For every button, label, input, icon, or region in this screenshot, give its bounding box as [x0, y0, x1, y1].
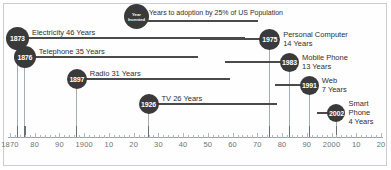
axis-tick-major: [35, 133, 36, 138]
axis-tick-minor: [371, 135, 372, 138]
axis-tick-minor: [173, 135, 174, 138]
axis-tick-major: [332, 133, 333, 138]
axis-ticks: [0, 130, 391, 138]
event-year-circle: 1876: [14, 46, 36, 68]
axis-tick-major: [134, 133, 135, 138]
axis-tick-major: [183, 133, 184, 138]
event-label-line2: Phone: [348, 108, 373, 117]
axis-tick-minor: [144, 135, 145, 138]
axis-tick-minor: [188, 135, 189, 138]
event-label-line1: Mobile Phone: [302, 53, 348, 62]
axis-tick-minor: [119, 135, 120, 138]
axis-tick-minor: [149, 135, 150, 138]
axis-tick-label: 60: [228, 140, 237, 149]
axis-tick-minor: [336, 135, 337, 138]
axis-tick-minor: [366, 135, 367, 138]
axis-tick-minor: [213, 135, 214, 138]
axis-tick-minor: [124, 135, 125, 138]
event-label: TV 26 Years: [162, 94, 203, 103]
legend-adoption-label: Years to adoption by 25% of US Populatio…: [149, 9, 283, 16]
axis-tick-minor: [317, 135, 318, 138]
axis-tick-minor: [351, 135, 352, 138]
axis-tick-minor: [55, 135, 56, 138]
event-label-line1: Web: [322, 76, 337, 85]
axis-tick-minor: [277, 135, 278, 138]
axis-tick-minor: [153, 135, 154, 138]
axis-tick-label: 10: [352, 140, 361, 149]
axis-tick-minor: [163, 135, 164, 138]
event-label: Telephone 35 Years: [39, 47, 105, 56]
axis-tick-major: [307, 133, 308, 138]
event-label-line1: Personal Computer: [283, 30, 348, 39]
axis-tick-minor: [361, 135, 362, 138]
axis-tick-major: [233, 133, 234, 138]
axis-tick-label: 40: [179, 140, 188, 149]
axis-tick-minor: [15, 135, 16, 138]
event-drop-line: [24, 57, 25, 137]
axis-tick-minor: [228, 135, 229, 138]
event-label-line2: 13 Years: [302, 62, 348, 71]
event-year-circle: 1991: [300, 76, 319, 95]
axis-tick-major: [10, 133, 11, 138]
axis-tick-major: [84, 133, 85, 138]
axis-tick-minor: [99, 135, 100, 138]
axis-tick-minor: [64, 135, 65, 138]
axis-tick-minor: [218, 135, 219, 138]
event-year-circle: 1975: [259, 29, 280, 50]
axis-tick-major: [282, 133, 283, 138]
event-label: Mobile Phone13 Years: [302, 53, 348, 71]
axis-tick-minor: [193, 135, 194, 138]
axis-tick-minor: [168, 135, 169, 138]
axis-tick-minor: [203, 135, 204, 138]
axis-tick-minor: [89, 135, 90, 138]
axis-tick-label: 10: [105, 140, 114, 149]
axis-tick-minor: [252, 135, 253, 138]
event-label-line1: Smart: [348, 99, 368, 108]
axis-tick-label: 70: [253, 140, 262, 149]
axis-tick-minor: [20, 135, 21, 138]
axis-tick-label: 20: [129, 140, 138, 149]
axis-tick-minor: [74, 135, 75, 138]
axis-tick-label: 1870: [1, 140, 19, 149]
axis-tick-minor: [178, 135, 179, 138]
legend-circle-line2: Invented: [128, 17, 145, 22]
axis-tick-minor: [287, 135, 288, 138]
event-label: Electricity 46 Years: [32, 28, 95, 37]
axis-tick-minor: [302, 135, 303, 138]
adoption-bar: [25, 56, 198, 58]
event-label-line3: 4 Years: [348, 117, 373, 126]
axis-tick-minor: [223, 135, 224, 138]
axis-tick-label: 1900: [75, 140, 93, 149]
axis-tick-minor: [312, 135, 313, 138]
axis-tick-minor: [50, 135, 51, 138]
axis-tick-minor: [267, 135, 268, 138]
axis-tick-minor: [45, 135, 46, 138]
axis-tick-minor: [30, 135, 31, 138]
axis-tick-minor: [238, 135, 239, 138]
axis-tick-minor: [376, 135, 377, 138]
axis-tick-label: 50: [203, 140, 212, 149]
axis-tick-minor: [69, 135, 70, 138]
event-label: SmartPhone4 Years: [348, 99, 373, 126]
axis-tick-minor: [272, 135, 273, 138]
event-year-circle: 1897: [67, 69, 87, 89]
axis-tick-label: 80: [278, 140, 287, 149]
event-label-line2: 14 Years: [283, 39, 348, 48]
axis-tick-major: [257, 133, 258, 138]
axis-tick-minor: [139, 135, 140, 138]
axis-tick-minor: [242, 135, 243, 138]
adoption-bar: [77, 78, 230, 80]
axis-tick-label: 80: [30, 140, 39, 149]
axis-tick-major: [356, 133, 357, 138]
axis-tick-minor: [297, 135, 298, 138]
axis-tick-minor: [247, 135, 248, 138]
axis-tick-minor: [341, 135, 342, 138]
axis-tick-minor: [327, 135, 328, 138]
axis-tick-minor: [79, 135, 80, 138]
axis-tick-minor: [129, 135, 130, 138]
event-label: Personal Computer14 Years: [283, 30, 348, 48]
axis-tick-label: 90: [55, 140, 64, 149]
axis-tick-label: 20: [377, 140, 386, 149]
legend-year-invented-marker: Year Invented: [124, 4, 149, 29]
legend-adoption-bar: [148, 20, 258, 22]
